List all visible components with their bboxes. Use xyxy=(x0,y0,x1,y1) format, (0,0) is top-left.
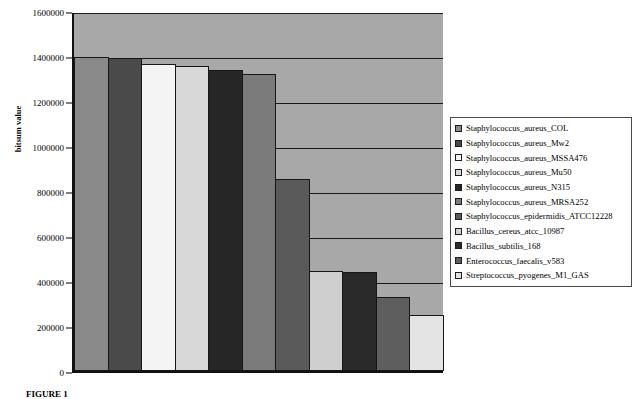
bar xyxy=(309,271,344,371)
legend-color-swatch xyxy=(455,213,462,220)
bar xyxy=(74,57,109,371)
bar xyxy=(342,272,377,371)
legend-color-swatch xyxy=(455,257,462,264)
legend-item[interactable]: Streptococcus_pyogenes_M1_GAS xyxy=(455,268,628,283)
legend-item-label: Bacillus_subtilis_168 xyxy=(466,241,540,251)
legend-color-swatch xyxy=(455,125,462,132)
plot-area xyxy=(72,13,443,373)
figure-caption: FIGURE 1 xyxy=(26,389,626,399)
figure-container: bitsum value 020000040000060000080000010… xyxy=(0,0,638,399)
y-axis-tick-label: 200000 xyxy=(37,324,64,333)
legend: Staphylococcus_aureus_COLStaphylococcus_… xyxy=(450,117,632,287)
legend-item[interactable]: Bacillus_cereus_atcc_10987 xyxy=(455,224,628,239)
legend-color-swatch xyxy=(455,228,462,235)
bar xyxy=(141,64,176,371)
legend-color-swatch xyxy=(455,198,462,205)
legend-item[interactable]: Staphylococcus_aureus_MRSA252 xyxy=(455,194,628,209)
bar xyxy=(242,74,277,371)
legend-item-label: Enterococcus_faecalis_v583 xyxy=(466,256,564,266)
legend-color-swatch xyxy=(455,154,462,161)
y-axis-tick-label: 1000000 xyxy=(33,144,65,153)
bar xyxy=(376,297,411,371)
legend-color-swatch xyxy=(455,272,462,279)
legend-item-label: Staphylococcus_aureus_N315 xyxy=(466,182,570,192)
bar xyxy=(409,315,444,371)
y-axis-tick-labels: 0200000400000600000800000100000012000001… xyxy=(18,0,72,382)
bar xyxy=(175,66,210,371)
legend-item[interactable]: Staphylococcus_aureus_Mu50 xyxy=(455,165,628,180)
legend-item-label: Staphylococcus_aureus_Mw2 xyxy=(466,138,569,148)
bar-chart: bitsum value 020000040000060000080000010… xyxy=(0,0,452,382)
legend-color-swatch xyxy=(455,169,462,176)
legend-color-swatch xyxy=(455,184,462,191)
legend-item[interactable]: Enterococcus_faecalis_v583 xyxy=(455,253,628,268)
y-axis-tick-label: 1200000 xyxy=(33,99,65,108)
legend-item-label: Staphylococcus_aureus_Mu50 xyxy=(466,167,572,177)
legend-item[interactable]: Staphylococcus_aureus_N315 xyxy=(455,180,628,195)
bar xyxy=(275,179,310,371)
legend-item-label: Staphylococcus_epidermidis_ATCC12228 xyxy=(466,211,613,221)
y-axis-tick-label: 0 xyxy=(60,369,65,378)
legend-item-label: Staphylococcus_aureus_MRSA252 xyxy=(466,197,588,207)
legend-item-label: Staphylococcus_aureus_MSSA476 xyxy=(466,153,587,163)
bar xyxy=(208,70,243,371)
legend-color-swatch xyxy=(455,140,462,147)
legend-item-label: Bacillus_cereus_atcc_10987 xyxy=(466,226,564,236)
legend-item[interactable]: Staphylococcus_aureus_MSSA476 xyxy=(455,150,628,165)
legend-item-label: Streptococcus_pyogenes_M1_GAS xyxy=(466,270,589,280)
legend-color-swatch xyxy=(455,242,462,249)
legend-item-label: Staphylococcus_aureus_COL xyxy=(466,123,568,133)
legend-item[interactable]: Bacillus_subtilis_168 xyxy=(455,239,628,254)
bar xyxy=(108,58,143,371)
y-axis-tick-label: 600000 xyxy=(37,234,64,243)
y-axis-tick-label: 1400000 xyxy=(33,54,65,63)
y-axis-tick-label: 800000 xyxy=(37,189,64,198)
legend-item[interactable]: Staphylococcus_aureus_Mw2 xyxy=(455,136,628,151)
legend-item[interactable]: Staphylococcus_aureus_COL xyxy=(455,121,628,136)
legend-item[interactable]: Staphylococcus_epidermidis_ATCC12228 xyxy=(455,209,628,224)
bar-series xyxy=(74,13,443,371)
y-axis-tick-label: 1600000 xyxy=(33,9,65,18)
y-axis-tick-label: 400000 xyxy=(37,279,64,288)
